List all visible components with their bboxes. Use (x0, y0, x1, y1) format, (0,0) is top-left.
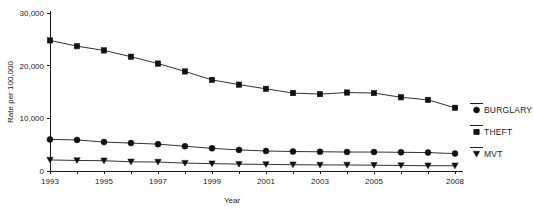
marker-circle (74, 137, 80, 143)
y-tick-label: 20,000 (20, 62, 45, 71)
marker-circle (474, 107, 480, 113)
marker-circle (425, 150, 431, 156)
x-tick-label: 1995 (95, 177, 113, 186)
marker-circle (290, 149, 296, 155)
y-tick-label: 30,000 (20, 9, 45, 18)
legend-label: THEFT (484, 127, 512, 137)
x-tick-label: 2003 (311, 177, 329, 186)
marker-circle (155, 141, 161, 147)
marker-square (317, 91, 322, 96)
marker-square (344, 90, 349, 95)
marker-triangle (473, 151, 479, 157)
marker-square (47, 38, 52, 43)
marker-square (452, 105, 457, 110)
marker-circle (452, 151, 458, 157)
x-tick-label: 2001 (257, 177, 275, 186)
x-tick-label: 2008 (446, 177, 464, 186)
x-tick-label: 1997 (149, 177, 167, 186)
marker-square (209, 77, 214, 82)
series-line-burglary (50, 139, 455, 153)
marker-square (290, 90, 295, 95)
series-line-theft (50, 40, 455, 107)
series-theft (47, 38, 457, 111)
marker-circle (101, 139, 107, 145)
marker-circle (371, 149, 377, 155)
x-tick-label: 1993 (41, 177, 59, 186)
data-series-group (47, 38, 458, 169)
marker-square (128, 54, 133, 59)
legend-label: MVT (484, 149, 503, 159)
marker-square (155, 61, 160, 66)
marker-circle (263, 148, 269, 154)
series-burglary (47, 136, 458, 156)
marker-circle (47, 136, 53, 142)
marker-circle (209, 145, 215, 151)
series-mvt (47, 157, 458, 169)
marker-square (236, 82, 241, 87)
legend-label: BURGLARY (484, 105, 532, 115)
marker-circle (317, 149, 323, 155)
legend-item-mvt: MVT (470, 147, 503, 159)
x-axis: 19931995199719992001200320052008 (41, 171, 464, 186)
y-tick-label: 10,000 (20, 114, 45, 123)
y-axis-title: Rate per 100,000 (6, 61, 15, 123)
marker-circle (182, 143, 188, 149)
marker-circle (236, 147, 242, 153)
x-tick-label: 1999 (203, 177, 221, 186)
marker-circle (344, 149, 350, 155)
marker-square (371, 90, 376, 95)
marker-square (101, 48, 106, 53)
legend-item-burglary: BURGLARY (470, 103, 532, 115)
y-axis: 010,00020,00030,000 (20, 9, 50, 176)
marker-square (398, 95, 403, 100)
y-tick-label: 0 (40, 167, 45, 176)
x-axis-title: Year (224, 196, 241, 205)
marker-square (474, 129, 479, 134)
marker-square (263, 86, 268, 91)
chart-legend: BURGLARYTHEFTMVT (470, 103, 532, 159)
marker-circle (398, 149, 404, 155)
chart-canvas: 010,00020,00030,000 19931995199719992001… (0, 0, 533, 209)
legend-item-theft: THEFT (470, 125, 512, 137)
marker-square (74, 43, 79, 48)
x-tick-label: 2005 (365, 177, 383, 186)
crime-rate-line-chart: 010,00020,00030,000 19931995199719992001… (0, 0, 533, 209)
series-line-mvt (50, 160, 455, 166)
marker-circle (128, 140, 134, 146)
marker-square (182, 69, 187, 74)
marker-square (425, 97, 430, 102)
